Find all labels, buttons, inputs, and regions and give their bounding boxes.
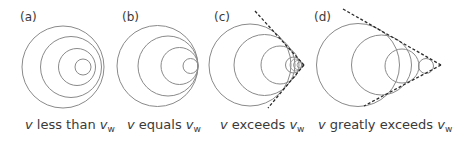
panel-d: (d) v greatly exceeds vw: [314, 9, 452, 134]
panel-b: (b) v equals vw: [117, 10, 201, 134]
panel-label-a: (a): [20, 10, 37, 24]
caption-c: v exceeds vw: [220, 117, 304, 134]
caption-a-text: less than: [33, 117, 100, 132]
caption-b: v equals vw: [127, 117, 201, 134]
panel-label-b: (b): [122, 10, 139, 24]
wavefront-diagram: (a) v less than vw (b) v equals vw (c) v…: [0, 0, 458, 141]
panel-c: (c) v exceeds vw: [209, 10, 304, 134]
wavefronts-a: [22, 26, 104, 108]
wavefront-circle: [419, 59, 434, 74]
wavefront-circle: [161, 48, 198, 85]
caption-b-subscript: w: [194, 124, 201, 134]
panel-label-c: (c): [214, 10, 230, 24]
wavefront-circle: [183, 59, 198, 74]
shock-cone-line: [364, 65, 441, 106]
panel-label-d: (d): [314, 10, 331, 24]
wavefront-circle: [59, 49, 96, 86]
wavefront-circle: [209, 24, 291, 106]
caption-d: v greatly exceeds vw: [318, 117, 452, 134]
caption-a-subscript: w: [108, 124, 115, 134]
wavefront-circle: [138, 36, 198, 96]
wavefronts-c: [209, 24, 303, 106]
caption-b-text: equals: [135, 117, 186, 132]
wavefront-circle: [75, 59, 91, 75]
panel-a: (a) v less than vw: [20, 10, 115, 134]
caption-a: v less than vw: [25, 117, 115, 134]
wavefront-circle: [352, 35, 412, 95]
caption-c-text: exceeds: [228, 117, 290, 132]
wavefront-circle: [385, 49, 419, 83]
wavefront-circle: [41, 37, 102, 98]
wavefront-circle: [22, 26, 104, 108]
wavefronts-b: [117, 26, 198, 107]
caption-c-subscript: w: [297, 124, 304, 134]
caption-d-subscript: w: [445, 124, 452, 134]
shock-cone-line: [343, 9, 441, 65]
wavefronts-d: [317, 24, 434, 107]
caption-d-text: greatly exceeds: [326, 117, 437, 132]
